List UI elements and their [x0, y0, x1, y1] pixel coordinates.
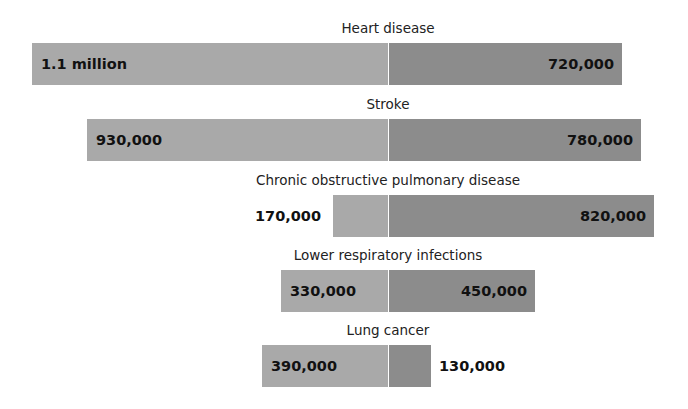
right-value-label: 130,000 [439, 345, 505, 387]
left-value-label: 170,000 [255, 195, 321, 237]
category-label: Chronic obstructive pulmonary disease [0, 172, 688, 188]
right-value-label: 780,000 [567, 119, 633, 161]
category-label: Stroke [0, 96, 688, 112]
category-label: Lung cancer [0, 322, 688, 338]
left-value-label: 1.1 million [41, 43, 127, 85]
right-value-label: 820,000 [580, 195, 646, 237]
category-label: Lower respiratory infections [0, 247, 688, 263]
left-value-label: 330,000 [290, 270, 356, 312]
right-value-label: 450,000 [461, 270, 527, 312]
left-value-label: 930,000 [96, 119, 162, 161]
left-bar [333, 195, 388, 237]
right-value-label: 720,000 [548, 43, 614, 85]
left-value-label: 390,000 [271, 345, 337, 387]
right-bar [389, 345, 431, 387]
category-label: Heart disease [0, 20, 688, 36]
